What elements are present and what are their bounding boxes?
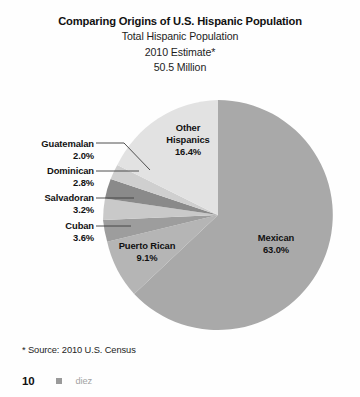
slice-label-puerto-rican-value: 9.1% <box>104 252 190 264</box>
page-title: Comparing Origins of U.S. Hispanic Popul… <box>0 14 360 29</box>
slice-label-other-hispanics-name-2: Hispanics <box>166 134 209 145</box>
slice-label-other-hispanics: Other Hispanics 16.4% <box>152 122 224 159</box>
callout-label-cuban-name: Cuban <box>65 220 94 231</box>
callout-label-salvadoran-value: 3.2% <box>0 204 94 216</box>
square-bullet-icon <box>56 378 62 384</box>
slice-label-other-hispanics-name-1: Other <box>176 122 201 133</box>
slice-label-mexican-name: Mexican <box>258 232 294 243</box>
pie-slice-dominican <box>105 179 218 215</box>
slice-label-puerto-rican-name: Puerto Rican <box>119 240 176 251</box>
callout-label-dominican: Dominican 2.8% <box>0 165 94 190</box>
source-footnote: * Source: 2010 U.S. Census <box>22 345 136 355</box>
pie-slice-salvadoran <box>103 198 218 220</box>
callout-label-dominican-name: Dominican <box>47 165 94 176</box>
callout-label-salvadoran: Salvadoran 3.2% <box>0 192 94 217</box>
chart-subtitle-line-3: 50.5 Million <box>0 60 360 76</box>
chart-header: Comparing Origins of U.S. Hispanic Popul… <box>0 14 360 76</box>
slice-label-mexican-value: 63.0% <box>240 244 312 256</box>
leader-line-guatemalan <box>96 143 150 170</box>
slice-label-other-hispanics-value: 16.4% <box>152 146 224 158</box>
callout-label-guatemalan-value: 2.0% <box>0 150 94 162</box>
slice-label-mexican: Mexican 63.0% <box>240 232 312 256</box>
callout-label-cuban: Cuban 3.6% <box>0 220 94 245</box>
pie-slice-guatemalan <box>111 165 218 215</box>
pie-slice-cuban <box>103 215 218 242</box>
page-number: 10 <box>22 375 34 387</box>
chart-subtitle-line-1: Total Hispanic Population <box>0 29 360 45</box>
footer-word: diez <box>75 376 92 386</box>
callout-label-guatemalan: Guatemalan 2.0% <box>0 138 94 163</box>
callout-label-guatemalan-name: Guatemalan <box>41 138 94 149</box>
leader-lines-group <box>96 143 150 226</box>
callout-label-cuban-value: 3.6% <box>0 232 94 244</box>
chart-subtitle-line-2: 2010 Estimate* <box>0 45 360 61</box>
page-canvas: Comparing Origins of U.S. Hispanic Popul… <box>0 0 360 397</box>
slice-label-puerto-rican: Puerto Rican 9.1% <box>104 240 190 264</box>
callout-label-dominican-value: 2.8% <box>0 177 94 189</box>
callout-label-salvadoran-name: Salvadoran <box>44 192 94 203</box>
page-footer: 10 diez <box>22 374 92 388</box>
